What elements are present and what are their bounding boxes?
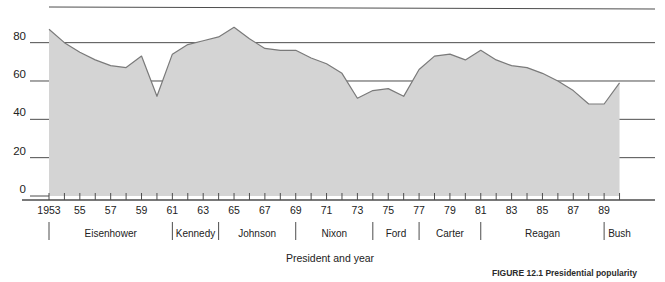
x-tick-label-1959: 59 bbox=[136, 204, 148, 216]
president-label-kennedy: Kennedy bbox=[176, 228, 215, 239]
x-axis-title-group: President and year bbox=[286, 252, 375, 264]
top-border-line bbox=[49, 7, 655, 9]
x-tick-label-1955: 55 bbox=[74, 204, 86, 216]
y-tick-label-20: 20 bbox=[13, 145, 26, 157]
figure-container: 806040200 195355575961636567697173757779… bbox=[0, 0, 665, 282]
x-tick-label-1967: 67 bbox=[259, 204, 271, 216]
x-tick-label-1987: 87 bbox=[567, 204, 579, 216]
x-tick-label-1981: 81 bbox=[475, 204, 487, 216]
president-label-eisenhower: Eisenhower bbox=[85, 228, 138, 239]
presidential-popularity-chart: 806040200 195355575961636567697173757779… bbox=[0, 0, 665, 282]
president-bands-group: EisenhowerKennedyJohnsonNixonFordCarterR… bbox=[49, 222, 631, 240]
y-tick-label-40: 40 bbox=[13, 106, 26, 118]
y-tick-label-80: 80 bbox=[13, 30, 26, 42]
x-axis-tick-labels-group: 1953555759616365676971737577798183858789 bbox=[37, 204, 610, 216]
president-label-johnson: Johnson bbox=[238, 228, 276, 239]
y-tick-label-60: 60 bbox=[13, 68, 26, 80]
x-tick-label-1973: 73 bbox=[352, 204, 364, 216]
figure-caption: FIGURE 12.1 Presidential popularity bbox=[492, 268, 665, 278]
x-tick-label-1963: 63 bbox=[197, 204, 209, 216]
x-tick-label-1977: 77 bbox=[413, 204, 425, 216]
x-tick-label-1989: 89 bbox=[598, 204, 610, 216]
president-label-ford: Ford bbox=[386, 228, 407, 239]
x-tick-label-1957: 57 bbox=[105, 204, 117, 216]
x-tick-label-1953: 1953 bbox=[37, 204, 61, 216]
area-fill bbox=[49, 27, 620, 196]
x-tick-label-1965: 65 bbox=[228, 204, 240, 216]
president-label-carter: Carter bbox=[436, 228, 464, 239]
president-label-nixon: Nixon bbox=[321, 228, 347, 239]
y-tick-label-0: 0 bbox=[20, 183, 26, 195]
area-series-group bbox=[49, 27, 620, 196]
president-label-reagan: Reagan bbox=[525, 228, 560, 239]
x-tick-label-1961: 61 bbox=[167, 204, 179, 216]
president-label-bush: Bush bbox=[608, 228, 631, 239]
x-tick-label-1985: 85 bbox=[537, 204, 549, 216]
y-axis-labels-group: 806040200 bbox=[13, 30, 26, 195]
x-tick-label-1975: 75 bbox=[382, 204, 394, 216]
x-tick-label-1983: 83 bbox=[506, 204, 518, 216]
x-tick-label-1971: 71 bbox=[321, 204, 333, 216]
x-axis-title: President and year bbox=[286, 252, 375, 264]
x-tick-label-1969: 69 bbox=[290, 204, 302, 216]
x-tick-label-1979: 79 bbox=[444, 204, 456, 216]
